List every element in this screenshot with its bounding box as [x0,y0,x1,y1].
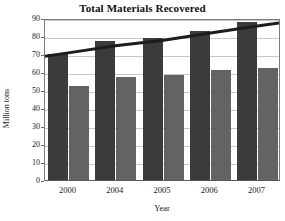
x-axis-title: Year [44,203,280,213]
y-tick-label: 90 [20,15,40,23]
y-tick-mark [41,91,44,92]
y-axis-title: Million tons [2,59,11,159]
chart-container: Total Materials Recovered Million tons 9… [0,0,285,221]
x-tick-label-2004: 2004 [95,185,135,195]
y-tick-label: 50 [20,87,40,95]
y-tick-mark [41,181,44,182]
y-tick-mark [41,127,44,128]
x-tick-label-2006: 2006 [189,185,229,195]
y-tick-mark [41,55,44,56]
y-tick-label: 80 [20,33,40,41]
x-tick-label-2000: 2000 [48,185,88,195]
x-tick-label-2005: 2005 [142,185,182,195]
x-axis-tick-labels: 20002004200520062007 [44,185,280,199]
y-tick-label: 40 [20,105,40,113]
y-tick-label: 60 [20,69,40,77]
y-tick-mark [41,163,44,164]
y-tick-mark [41,37,44,38]
y-tick-mark [41,109,44,110]
y-tick-label: 70 [20,51,40,59]
trend-line-layer [45,20,279,180]
x-tick-label-2007: 2007 [236,185,276,195]
trend-line [45,23,279,56]
y-tick-label: 0 [20,177,40,185]
y-tick-label: 20 [20,141,40,149]
y-tick-mark [41,73,44,74]
y-axis-tick-labels: 9080706050403020100 [16,19,40,181]
y-tick-label: 30 [20,123,40,131]
y-tick-mark [41,19,44,20]
plot-area [44,19,280,181]
y-tick-mark [41,145,44,146]
chart-title: Total Materials Recovered [0,2,285,14]
y-tick-label: 10 [20,159,40,167]
y-axis-title-wrap: Million tons [0,55,12,165]
